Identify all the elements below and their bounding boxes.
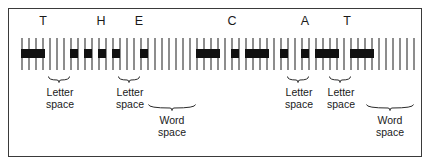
brace-letter-space-1 [48,76,70,83]
letter-label: E [130,14,148,28]
letter-label: H [92,14,110,28]
brace-letter-space-2 [118,76,140,83]
brace-word-space-2 [366,104,414,111]
brace-letter-space-3 [287,76,309,83]
annotation-label-word-space-2: Word space [364,114,416,138]
annotation-label-word-space-1: Word space [146,114,198,138]
letter-label: T [338,14,356,28]
annotation-label-letter-space-1: Letter space [32,86,88,110]
diagram-frame [8,8,422,157]
brace-letter-space-4 [329,76,351,83]
letter-label: T [34,14,52,28]
brace-word-space-1 [148,104,196,111]
annotation-label-letter-space-4: Letter space [313,86,369,110]
morse-timing-diagram: THECAT Letter spaceLetter spaceWord spac… [0,0,432,166]
letter-label: C [223,14,241,28]
letter-label: A [296,14,314,28]
